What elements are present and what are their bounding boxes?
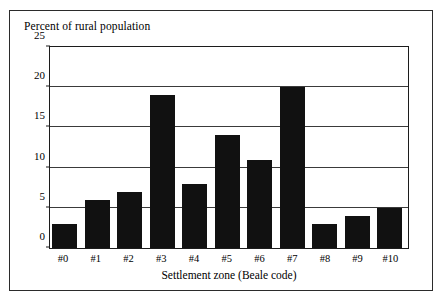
bar-slot (343, 47, 376, 248)
x-tick-label: #10 (382, 253, 398, 264)
bar (52, 224, 77, 248)
bar-slot (375, 47, 408, 248)
bar-slot (50, 47, 83, 248)
y-tick-label: 5 (40, 190, 46, 202)
bar (280, 87, 305, 248)
bar (85, 200, 110, 248)
y-tick-label: 10 (34, 150, 45, 162)
x-tick-label: #7 (287, 253, 298, 264)
y-tick-label: 15 (34, 109, 45, 121)
x-tick-label: #3 (156, 253, 167, 264)
x-tick-label: #1 (90, 253, 101, 264)
bar-slot (148, 47, 181, 248)
bar-slot (310, 47, 343, 248)
bar-slot (213, 47, 246, 248)
bar (150, 95, 175, 248)
x-tick-label: #5 (221, 253, 232, 264)
y-tick-label: 0 (40, 230, 46, 242)
x-axis-title: Settlement zone (Beale code) (49, 269, 409, 281)
bar (247, 160, 272, 248)
bar-slot (83, 47, 116, 248)
bar (377, 208, 402, 248)
bar (117, 192, 142, 248)
bar (345, 216, 370, 248)
x-tick-label: #2 (123, 253, 134, 264)
x-tick-label: #8 (320, 253, 331, 264)
bar-slot (180, 47, 213, 248)
bar (215, 135, 240, 248)
bar (312, 224, 337, 248)
y-tick-label: 25 (34, 29, 45, 41)
x-tick-label: #9 (352, 253, 363, 264)
bar-slot (278, 47, 311, 248)
plot-area: 0510152025 (49, 46, 409, 249)
bar-slot (245, 47, 278, 248)
y-tick-label: 20 (34, 69, 45, 81)
figure-frame: Percent of rural population 0510152025 #… (9, 10, 433, 291)
bar-series (50, 47, 408, 248)
bar-slot (115, 47, 148, 248)
x-tick-label: #0 (58, 253, 69, 264)
x-tick-label: #4 (189, 253, 200, 264)
x-tick-label: #6 (254, 253, 265, 264)
bar (182, 184, 207, 248)
